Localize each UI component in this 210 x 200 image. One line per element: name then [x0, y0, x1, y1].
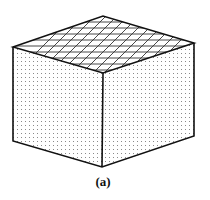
cube-diagram — [0, 0, 210, 200]
figure-caption: (a) — [0, 174, 206, 190]
